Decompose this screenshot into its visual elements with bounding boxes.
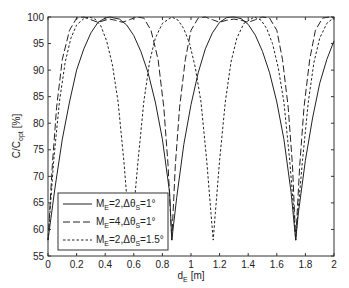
x-tick-label: 0.2	[70, 259, 84, 270]
x-tick-label: 1.8	[298, 259, 312, 270]
legend: ME=2,ΔθS=1° ME=4,ΔθS=1° ME=2,ΔθS=1.5°	[58, 193, 168, 250]
x-tick-label: 0	[45, 259, 51, 270]
x-tick-label: 2	[331, 259, 337, 270]
x-tick-label: 1.2	[213, 259, 227, 270]
x-tick-label: 0.4	[98, 259, 112, 270]
y-tick-label: 100	[27, 12, 44, 23]
y-tick-label: 90	[33, 65, 45, 76]
chart: 00.20.40.60.811.21.41.61.82 556065707580…	[0, 0, 349, 288]
x-tick-label: 0.6	[127, 259, 141, 270]
y-tick-label: 95	[33, 38, 45, 49]
y-tick-label: 55	[33, 251, 45, 262]
y-axis-label: C/Copt[%]	[11, 114, 25, 159]
x-tick-label: 1.4	[241, 259, 255, 270]
x-tick-label: 0.8	[155, 259, 169, 270]
y-tick-label: 80	[33, 118, 45, 129]
y-tick-label: 65	[33, 197, 45, 208]
y-tick-label: 75	[33, 144, 45, 155]
x-tick-label: 1.6	[270, 259, 284, 270]
y-tick-label: 85	[33, 91, 45, 102]
x-tick-label: 1	[188, 259, 194, 270]
y-tick-label: 60	[33, 224, 45, 235]
y-tick-label: 70	[33, 171, 45, 182]
x-axis-label: dE[m]	[177, 270, 204, 283]
